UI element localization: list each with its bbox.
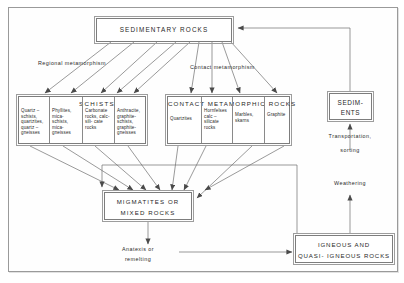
node-sedimentary-rocks[interactable]: SEDIMENTARY ROCKS: [96, 18, 232, 42]
annotation-transportation: Transportation,: [306, 133, 394, 139]
annotation-weathering: Weathering: [306, 180, 394, 186]
node-sediments[interactable]: SEDIM- ENTS: [329, 93, 372, 120]
schists-column-quartz: Quartz – schists, quartzites, quartz – g…: [19, 97, 50, 143]
annotation-regional-metamorphism: Regional metamorphism: [38, 60, 106, 66]
rock-cycle-diagram: SEDIMENTARY ROCKS SEDIM- ENTS SCHISTS Qu…: [0, 0, 404, 283]
node-regional-metamorphic-rocks[interactable]: SCHISTS Quartz – schists, quartzites, qu…: [18, 96, 146, 144]
contact-column-hornfelses: Hornfelses calc – silicate rocks: [202, 97, 233, 143]
node-migmatites[interactable]: MIGMATITES OR MIXED ROCKS: [104, 192, 192, 220]
contact-column-graphite: Graphite: [265, 97, 291, 143]
contact-column-marbles: Marbles, skarns: [233, 97, 265, 143]
schists-column-anthracite: Anthracite, graphite- schists, graphite-…: [115, 97, 147, 143]
node-contact-metamorphic-rocks[interactable]: CONTACT METAMORPHIC ROCKS Quartzites Hor…: [167, 96, 290, 144]
migmatites-label-line1: MIGMATITES OR: [105, 198, 191, 205]
annotation-contact-metamorphism: Contact metamorphism: [190, 64, 255, 70]
igneous-label-line2: QUASI- IGNEOUS ROCKS: [296, 252, 392, 259]
igneous-label-line1: IGNEOUS AND: [296, 241, 392, 248]
sediments-label-line1: SEDIM-: [330, 99, 371, 106]
migmatites-label-line2: MIXED ROCKS: [105, 209, 191, 216]
contact-column-quartzites: Quartzites: [168, 97, 202, 143]
schists-column-phyllites: Phyllites, mica- schists, mica- gneisses: [50, 97, 83, 143]
regional-metamorphism-arrows: [45, 42, 190, 93]
node-igneous-rocks[interactable]: IGNEOUS AND QUASI- IGNEOUS ROCKS: [295, 235, 393, 263]
annotation-anatexis-line2: remelting: [96, 256, 180, 262]
sedimentary-rocks-label: SEDIMENTARY ROCKS: [97, 26, 231, 33]
schists-column-carbonate: Carbonate rocks, calc-sili- cate rocks: [83, 97, 115, 143]
annotation-anatexis-line1: Anatexis or: [96, 246, 180, 252]
annotation-sorting: sorting: [306, 147, 394, 153]
sediments-to-sedimentary-line: [238, 28, 350, 92]
to-migmatites-arrows: [30, 146, 284, 198]
sediments-label-line2: ENTS: [330, 109, 371, 116]
